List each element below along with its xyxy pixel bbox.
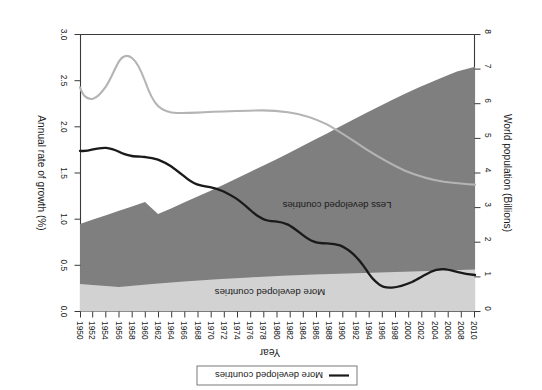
x-tick-label: 1950	[75, 321, 85, 340]
legend-label-more-developed: More developed countries	[215, 370, 323, 381]
x-tick-label: 1990	[337, 321, 347, 340]
band-label-more-developed: More developed countries	[215, 287, 326, 298]
y-left-tick-label: 8	[483, 29, 493, 34]
y-right-tick-label: 3.0	[59, 29, 69, 41]
x-tick-label: 1972	[219, 321, 229, 340]
y-right-tick-label: 0.0	[59, 306, 69, 318]
figure-rotator: More developed countries More developed …	[0, 0, 542, 390]
y-left-tick-label: 6	[483, 98, 493, 103]
x-tick-label: 1984	[298, 321, 308, 340]
y-left-tick-label: 2	[483, 237, 493, 242]
x-tick-label: 1962	[153, 321, 163, 340]
band-label-less-developed: Less developed countries	[282, 200, 391, 211]
y-right-tick-label: 2.5	[59, 75, 69, 87]
y-left-tick-label: 5	[483, 133, 493, 138]
x-tick-label: 1970	[206, 321, 216, 340]
x-tick-label: 1996	[377, 321, 387, 340]
x-tick-label: 1974	[232, 321, 242, 340]
x-tick-label: 2002	[416, 321, 426, 340]
x-tick-label: 1966	[179, 321, 189, 340]
y-right-tick-label: 1.5	[59, 167, 69, 179]
y-left-tick-label: 0	[483, 306, 493, 311]
x-tick-label: 1958	[127, 321, 137, 340]
y-left-tick-label: 1	[483, 272, 493, 277]
y-right-tick-label: 0.5	[59, 259, 69, 271]
x-axis-title: Year	[259, 347, 280, 358]
x-tick-label: 1980	[272, 321, 282, 340]
y-right-tick-label: 2.0	[59, 121, 69, 133]
x-tick-label: 1956	[114, 321, 124, 340]
y-left-tick-label: 4	[483, 168, 493, 173]
y-right-tick-label: 1.0	[59, 213, 69, 225]
x-tick-label: 1954	[100, 321, 110, 340]
x-tick-label: 1994	[364, 321, 374, 340]
x-tick-label: 2000	[403, 321, 413, 340]
x-tick-label: 1982	[285, 321, 295, 340]
x-tick-label: 1968	[193, 321, 203, 340]
x-tick-label: 1976	[245, 321, 255, 340]
x-tick-label: 1960	[140, 321, 150, 340]
x-tick-label: 1978	[258, 321, 268, 340]
x-tick-label: 2004	[430, 321, 440, 340]
y-left-tick-label: 3	[483, 202, 493, 207]
x-tick-label: 1986	[311, 321, 321, 340]
x-tick-label: 2010	[469, 321, 479, 340]
x-tick-label: 1992	[351, 321, 361, 340]
x-tick-label: 1988	[324, 321, 334, 340]
legend: More developed countries	[197, 366, 357, 385]
y-axis-right-title: Annual rate of growth (%)	[36, 115, 47, 231]
x-tick-label: 2006	[443, 321, 453, 340]
x-tick-label: 1998	[390, 321, 400, 340]
y-axis-left-title: World population (Billions)	[502, 114, 513, 232]
x-tick-label: 2008	[456, 321, 466, 340]
x-tick-label: 1964	[166, 321, 176, 340]
y-left-tick-label: 7	[483, 64, 493, 69]
x-axis-tick-labels: 2010 2008 2006 2004 2002 2000 1998 1996 …	[75, 321, 479, 340]
population-growth-chart: More developed countries More developed …	[0, 0, 542, 390]
x-tick-label: 1952	[87, 321, 97, 340]
